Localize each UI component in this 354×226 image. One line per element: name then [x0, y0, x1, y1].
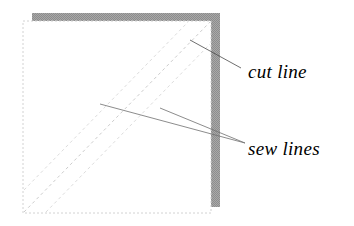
figure-canvas: cut line sew lines	[0, 0, 354, 226]
sew-lines-label: sew lines	[248, 138, 320, 159]
cut-line-label: cut line	[248, 61, 307, 82]
